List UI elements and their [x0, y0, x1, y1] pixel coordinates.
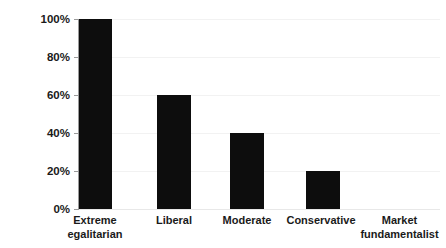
x-axis-label-market-fundamentalist: Market fundamentalist: [359, 213, 440, 241]
y-tick-0: [74, 209, 78, 210]
bar-conservative[interactable]: [306, 171, 340, 209]
y-axis-label-40: 40%: [0, 127, 70, 139]
bar-chart: 100% 80% 60% 40% 20% 0% Extreme egalitar…: [0, 0, 446, 248]
bar-extreme-egalitarian[interactable]: [78, 19, 112, 209]
y-axis-label-20: 20%: [0, 165, 70, 177]
x-axis-label-line-1: Moderate: [211, 213, 283, 227]
gridline-0: [78, 209, 440, 210]
x-axis-label-line-2: fundamentalist: [359, 227, 440, 241]
y-axis-label-80: 80%: [0, 51, 70, 63]
x-axis-label-line-1: Market: [359, 213, 440, 227]
y-tick-100: [74, 19, 78, 20]
x-axis-label-liberal: Liberal: [138, 213, 210, 227]
y-axis-label-60: 60%: [0, 89, 70, 101]
plot-area: [78, 19, 440, 209]
x-axis-label-line-1: Conservative: [283, 213, 359, 227]
y-tick-80: [74, 57, 78, 58]
y-tick-40: [74, 133, 78, 134]
y-axis-line: [78, 19, 79, 210]
x-axis-label-line-2: egalitarian: [59, 227, 131, 241]
x-axis-label-extreme-egalitarian: Extreme egalitarian: [59, 213, 131, 241]
y-tick-20: [74, 171, 78, 172]
x-axis-label-moderate: Moderate: [211, 213, 283, 227]
bar-moderate[interactable]: [230, 133, 264, 209]
x-axis-labels: Extreme egalitarian Liberal Moderate Con…: [78, 213, 440, 248]
x-axis-label-line-1: Liberal: [138, 213, 210, 227]
x-axis-label-line-1: Extreme: [59, 213, 131, 227]
y-tick-60: [74, 95, 78, 96]
bars-layer: [78, 19, 440, 209]
x-axis-label-conservative: Conservative: [283, 213, 359, 227]
y-axis-label-100: 100%: [0, 13, 70, 25]
bar-liberal[interactable]: [157, 95, 191, 209]
